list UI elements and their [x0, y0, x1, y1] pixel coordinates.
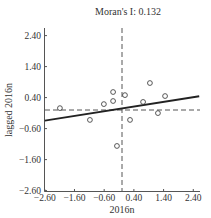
- scatter-point: [163, 94, 168, 99]
- x-tick-label: −2.60: [34, 193, 56, 203]
- scatter-point: [156, 111, 161, 116]
- x-axis-label: 2016n: [110, 204, 135, 215]
- y-tick-label: 1.40: [24, 62, 41, 72]
- scatter-point: [141, 100, 146, 105]
- y-tick-label: −0.60: [19, 124, 41, 134]
- scatter-point: [88, 118, 93, 123]
- data-points: [58, 81, 168, 149]
- scatter-point: [111, 99, 116, 104]
- reference-lines: [45, 28, 200, 191]
- x-tick-label: 2.40: [185, 193, 202, 203]
- scatter-point: [128, 118, 133, 123]
- scatter-point: [58, 106, 63, 111]
- y-tick-label: 2.40: [24, 31, 41, 41]
- x-tick-label: −0.60: [93, 193, 115, 203]
- chart-title: Moran's I: 0.132: [95, 6, 161, 17]
- y-tick-label: 0.40: [24, 93, 41, 103]
- y-tick-label: −1.60: [19, 155, 41, 165]
- y-axis-label: lagged 2016n: [3, 83, 14, 137]
- y-axis-ticks: 2.401.400.40−0.60−1.60−2.60: [19, 31, 47, 196]
- plot-canvas: Moran's I: 0.132 2.401.400.40−0.60−1.60−…: [0, 0, 211, 218]
- scatter-point: [111, 90, 116, 95]
- scatter-point: [101, 102, 106, 107]
- x-tick-label: −1.60: [63, 193, 85, 203]
- x-tick-label: 0.40: [126, 193, 143, 203]
- moran-scatter-chart: Moran's I: 0.132 2.401.400.40−0.60−1.60−…: [0, 0, 211, 218]
- scatter-point: [123, 93, 128, 98]
- scatter-point: [148, 81, 153, 86]
- scatter-point: [115, 144, 120, 149]
- x-tick-label: 1.40: [155, 193, 172, 203]
